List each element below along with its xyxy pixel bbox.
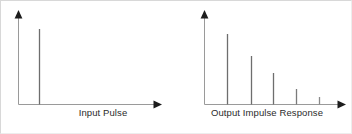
panel-input-pulse: Input Pulse [1,1,177,134]
output-impulse-response-caption: Output Impulse Response [177,107,352,119]
figure-container: Input Pulse Output Impulse Response [0,0,352,134]
y-axis-arrowhead-icon [15,10,23,19]
input-pulse-caption: Input Pulse [1,107,191,119]
panel-output-impulse-response: Output Impulse Response [177,1,352,134]
y-axis-arrowhead-icon [201,10,209,19]
